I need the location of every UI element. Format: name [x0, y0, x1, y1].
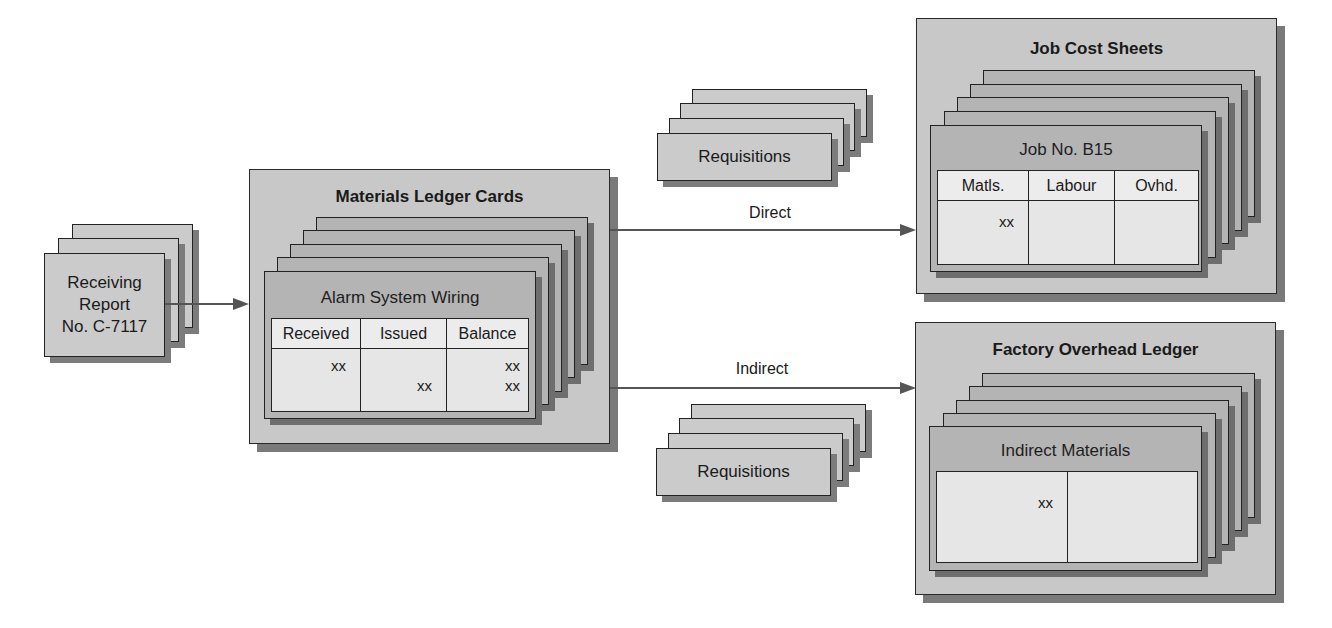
job-card-title: Job No. B15 [931, 140, 1201, 160]
job-cost-sheets-title: Job Cost Sheets [917, 39, 1276, 59]
balance-entry-2: xx [505, 377, 520, 394]
job-cost-table: Matls. Labour Ovhd. xx [937, 170, 1199, 265]
overhead-cell-credit [1068, 472, 1197, 562]
ledger-col-received: Received [272, 319, 361, 349]
ledger-table: Received Issued Balance xx xx xx xx [271, 318, 529, 412]
ledger-col-balance: Balance [447, 319, 528, 349]
job-cell-labour [1029, 201, 1115, 264]
arrow-direct [610, 229, 902, 231]
requisitions-label-bottom: Requisitions [697, 461, 790, 483]
arrow-receiving-to-ledger [165, 303, 235, 305]
receiving-report-line-2: Report [62, 294, 148, 316]
ledger-card-front: Alarm System Wiring Received Issued Bala… [264, 271, 536, 419]
ledger-card-title: Alarm System Wiring [265, 288, 535, 308]
requisition-card-front: Requisitions [657, 133, 832, 181]
job-cell-ovhd [1115, 201, 1198, 264]
issued-entry: xx [417, 377, 432, 394]
overhead-cell-debit: xx [937, 472, 1068, 562]
indirect-materials-entry: xx [1038, 494, 1053, 511]
balance-entry-1: xx [505, 357, 520, 374]
factory-overhead-title: Factory Overhead Ledger [916, 340, 1275, 360]
job-card-front: Job No. B15 Matls. Labour Ovhd. xx [930, 125, 1202, 272]
matls-entry: xx [999, 213, 1014, 230]
job-col-ovhd: Ovhd. [1115, 171, 1198, 201]
receiving-report-card-front: Receiving Report No. C-7117 [44, 253, 165, 357]
arrowhead-icon [233, 298, 249, 310]
requisitions-label-top: Requisitions [698, 146, 791, 168]
arrowhead-icon [900, 382, 916, 394]
received-entry: xx [331, 357, 346, 374]
overhead-card-front: Indirect Materials xx [929, 426, 1202, 571]
arrowhead-icon [900, 224, 916, 236]
receiving-report-line-1: Receiving [62, 272, 148, 294]
ledger-col-issued: Issued [361, 319, 447, 349]
job-cell-matls: xx [938, 201, 1029, 264]
requisition-card-front: Requisitions [656, 448, 831, 496]
receiving-report-line-3: No. C-7117 [62, 316, 148, 338]
ledger-cell-issued: xx [361, 349, 447, 411]
job-col-labour: Labour [1029, 171, 1115, 201]
overhead-table: xx [936, 471, 1198, 563]
ledger-cell-received: xx [272, 349, 361, 411]
overhead-card-title: Indirect Materials [930, 441, 1201, 461]
indirect-label: Indirect [712, 360, 812, 378]
materials-ledger-title: Materials Ledger Cards [250, 187, 609, 207]
arrow-indirect [610, 387, 902, 389]
job-col-matls: Matls. [938, 171, 1029, 201]
ledger-cell-balance: xx xx [447, 349, 528, 411]
direct-label: Direct [720, 204, 820, 222]
